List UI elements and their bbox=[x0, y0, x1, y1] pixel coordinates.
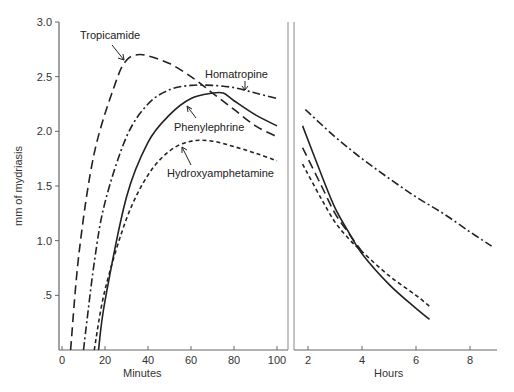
x-tick-label: 80 bbox=[228, 354, 240, 366]
label-hydroxyamphetamine: Hydroxyamphetamine bbox=[167, 167, 274, 179]
y-axis-title: mm of mydriasis bbox=[12, 145, 24, 226]
x-tick-label: 2 bbox=[305, 354, 311, 366]
y-tick-label: 3.0 bbox=[37, 16, 52, 28]
label-homatropine: Homatropine bbox=[205, 68, 268, 80]
mydriasis-chart: .51.01.52.02.53.0 020406080100 2468 mm o… bbox=[0, 0, 514, 392]
y-tick-label: 1.0 bbox=[37, 235, 52, 247]
x-tick-label: 6 bbox=[413, 354, 419, 366]
left-y-ticks: .51.01.52.02.53.0 bbox=[37, 16, 59, 301]
x-tick-label: 8 bbox=[467, 354, 473, 366]
x-axis-title-minutes: Minutes bbox=[123, 367, 162, 379]
x-tick-label: 4 bbox=[359, 354, 365, 366]
x-tick-label: 100 bbox=[268, 354, 286, 366]
y-tick-label: 2.5 bbox=[37, 71, 52, 83]
arrow-tropicamide bbox=[112, 45, 124, 60]
left-series bbox=[71, 54, 277, 350]
y-tick-label: 2.0 bbox=[37, 125, 52, 137]
x-axis-title-hours: Hours bbox=[374, 367, 404, 379]
x-tick-label: 20 bbox=[99, 354, 111, 366]
series-homatropine bbox=[305, 109, 491, 246]
label-tropicamide: Tropicamide bbox=[80, 29, 140, 41]
x-tick-label: 0 bbox=[59, 354, 65, 366]
x-tick-label: 60 bbox=[185, 354, 197, 366]
label-phenylephrine: Phenylephrine bbox=[174, 121, 244, 133]
right-x-ticks: 2468 bbox=[305, 346, 473, 366]
y-tick-label: .5 bbox=[43, 289, 52, 301]
x-tick-label: 40 bbox=[142, 354, 154, 366]
left-x-ticks: 020406080100 bbox=[59, 346, 286, 366]
right-series bbox=[303, 109, 492, 319]
arrow-phenylephrine bbox=[187, 106, 196, 118]
y-tick-label: 1.5 bbox=[37, 180, 52, 192]
series-tropicamide bbox=[303, 148, 362, 252]
right-panel: 2468 bbox=[294, 22, 497, 366]
